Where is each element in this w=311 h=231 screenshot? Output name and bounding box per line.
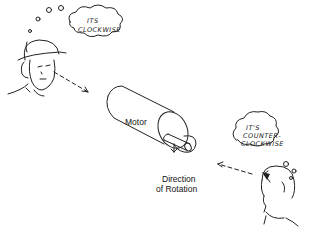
- motor: [107, 86, 196, 153]
- left-observer: [8, 5, 123, 96]
- right-thought-line2: COUNTER-: [243, 132, 281, 140]
- right-observer-hair: [262, 172, 270, 180]
- right-thought-line1: IT'S: [246, 124, 260, 132]
- motor-rotation-diagram: ITS CLOCKWISE IT'S COUNTER- CLOCKWISE Mo…: [0, 0, 311, 231]
- left-sight-line: [54, 72, 88, 92]
- motor-label: Motor: [125, 117, 147, 127]
- right-thought-line3: CLOCKWISE: [241, 140, 284, 148]
- right-sight-line: [218, 164, 252, 174]
- rotation-label-line1: Direction: [162, 174, 196, 184]
- left-thought-line1: ITS: [87, 17, 99, 25]
- left-thought-line2: CLOCKWISE: [78, 26, 121, 34]
- rotation-label-line2: of Rotation: [156, 184, 197, 194]
